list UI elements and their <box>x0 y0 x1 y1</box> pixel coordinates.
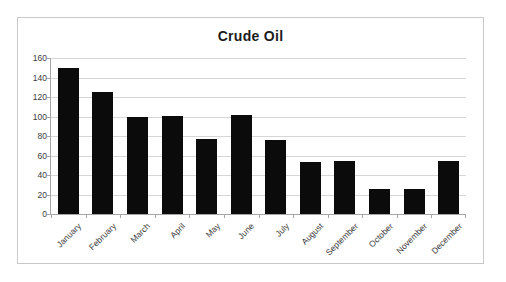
x-axis-tick-label: August <box>300 221 326 247</box>
bar[interactable] <box>127 117 148 215</box>
gridline <box>51 78 466 79</box>
x-axis-tick-label: October <box>366 221 394 249</box>
bar[interactable] <box>438 161 459 214</box>
bar[interactable] <box>369 189 390 214</box>
x-axis-tick-mark <box>328 214 329 218</box>
x-axis-tick-label: September <box>324 221 360 257</box>
x-axis-tick-label: June <box>236 221 256 241</box>
x-axis-tick-label: February <box>87 221 118 252</box>
bar[interactable] <box>196 139 217 214</box>
bar[interactable] <box>265 140 286 214</box>
chart-title: Crude Oil <box>18 28 483 44</box>
x-axis-tick-mark <box>362 214 363 218</box>
bar[interactable] <box>404 189 425 214</box>
plot-area <box>51 58 466 214</box>
x-axis-tick-mark <box>86 214 87 218</box>
x-axis-tick-mark <box>120 214 121 218</box>
y-axis-tick-marks <box>18 58 51 214</box>
bar[interactable] <box>162 116 183 214</box>
x-axis-tick-label: April <box>168 221 187 240</box>
bar[interactable] <box>334 161 355 214</box>
x-axis-tick-mark <box>397 214 398 218</box>
x-axis-tick-label: January <box>55 221 83 249</box>
bar[interactable] <box>58 68 79 214</box>
x-axis-tick-mark <box>431 214 432 218</box>
x-axis-labels: JanuaryFebruaryMarchAprilMayJuneJulyAugu… <box>51 219 466 265</box>
bar[interactable] <box>231 115 252 214</box>
x-axis-tick-mark <box>155 214 156 218</box>
x-axis-tick-label: May <box>203 221 221 239</box>
x-axis-tick-mark <box>189 214 190 218</box>
chart-frame: Crude Oil 020406080100120140160 JanuaryF… <box>17 17 484 264</box>
x-axis-tick-label: November <box>394 221 429 256</box>
x-axis-tick-mark <box>224 214 225 218</box>
x-axis-tick-mark <box>465 214 466 218</box>
x-axis-tick-label: December <box>429 221 464 256</box>
gridline <box>51 58 466 59</box>
x-axis-tick-mark <box>293 214 294 218</box>
x-axis-tick-mark <box>259 214 260 218</box>
bar[interactable] <box>92 92 113 214</box>
x-axis-tick-label: July <box>273 221 291 239</box>
x-axis-tick-label: March <box>129 221 153 245</box>
bar[interactable] <box>300 162 321 214</box>
x-axis-tick-mark <box>51 214 52 218</box>
